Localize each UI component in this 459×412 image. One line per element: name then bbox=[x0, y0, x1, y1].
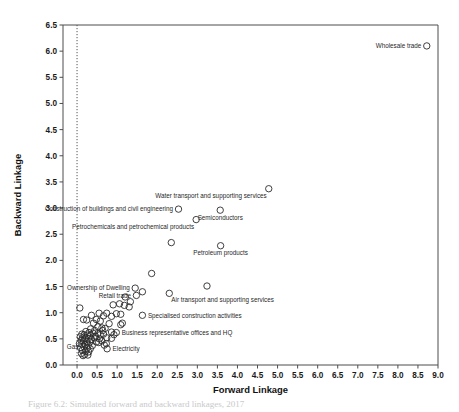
x-tick-label: 4.0 bbox=[232, 371, 244, 380]
data-point bbox=[118, 322, 124, 328]
point-labels-layer: Wholesale tradeWater transport and suppo… bbox=[45, 42, 422, 353]
point-label: Air transport and supporting services bbox=[171, 296, 274, 304]
data-point bbox=[217, 243, 223, 249]
point-label: Water transport and supporting services bbox=[155, 192, 266, 200]
point-label: Petroleum products bbox=[193, 249, 248, 257]
y-tick-label: 5.5 bbox=[46, 73, 58, 82]
data-point bbox=[108, 313, 114, 319]
data-point bbox=[119, 320, 125, 326]
y-tick-label: 2.5 bbox=[46, 230, 58, 239]
y-tick-label: 6.0 bbox=[46, 47, 58, 56]
point-label: Retail trade bbox=[99, 292, 132, 299]
x-tick-label: 7.0 bbox=[352, 371, 364, 380]
data-point bbox=[77, 305, 83, 311]
data-point bbox=[139, 312, 145, 318]
point-label: Semiconductors bbox=[198, 214, 243, 221]
scatter-plot: 0.00.51.01.52.02.53.03.54.04.55.05.56.06… bbox=[0, 0, 459, 412]
x-tick-label: 5.5 bbox=[292, 371, 304, 380]
data-point bbox=[424, 43, 430, 49]
y-tick-label: 5.0 bbox=[46, 99, 58, 108]
x-tick-label: 3.0 bbox=[192, 371, 204, 380]
data-point bbox=[266, 186, 272, 192]
y-tick-label: 6.5 bbox=[46, 21, 58, 30]
point-label: Construction of buildings and civil engi… bbox=[45, 205, 174, 213]
point-label: Business representative offices and HQ bbox=[122, 329, 233, 337]
x-tick-label: 6.0 bbox=[312, 371, 324, 380]
y-tick-label: 1.0 bbox=[46, 309, 58, 318]
x-tick-label: 3.5 bbox=[212, 371, 224, 380]
x-tick-label: 1.0 bbox=[111, 371, 123, 380]
y-tick-label: 1.5 bbox=[46, 283, 58, 292]
point-label: Electricity bbox=[113, 345, 141, 353]
y-tick-label: 4.0 bbox=[46, 152, 58, 161]
data-point bbox=[217, 207, 223, 213]
y-tick-label: 2.0 bbox=[46, 256, 58, 265]
x-tick-label: 4.5 bbox=[252, 371, 264, 380]
x-tick-label: 1.5 bbox=[132, 371, 144, 380]
y-tick-label: 4.5 bbox=[46, 126, 58, 135]
x-tick-label: 6.5 bbox=[332, 371, 344, 380]
data-point bbox=[168, 239, 174, 245]
data-point bbox=[118, 311, 124, 317]
axes-layer: 0.00.51.01.52.02.53.03.54.04.55.05.56.06… bbox=[46, 21, 445, 380]
data-point bbox=[97, 318, 103, 324]
data-points-layer bbox=[76, 43, 430, 359]
x-tick-label: 5.0 bbox=[272, 371, 284, 380]
data-point bbox=[175, 206, 181, 212]
x-tick-label: 0.5 bbox=[91, 371, 103, 380]
x-tick-label: 2.5 bbox=[172, 371, 184, 380]
x-tick-label: 8.0 bbox=[392, 371, 404, 380]
y-tick-label: 0.5 bbox=[46, 335, 58, 344]
x-tick-label: 8.5 bbox=[412, 371, 424, 380]
axis-titles-layer: Forward LinkageBackward Linkage bbox=[12, 154, 288, 395]
figure-caption: Figure 6.2: Simulated forward and backwa… bbox=[28, 399, 448, 409]
x-tick-label: 0.0 bbox=[71, 371, 83, 380]
x-tick-label: 7.5 bbox=[372, 371, 384, 380]
figure-container: 0.00.51.01.52.02.53.03.54.04.55.05.56.06… bbox=[0, 0, 459, 412]
y-tick-label: 3.5 bbox=[46, 178, 58, 187]
x-axis-title: Forward Linkage bbox=[213, 384, 288, 395]
x-tick-label: 2.0 bbox=[152, 371, 164, 380]
y-axis-title: Backward Linkage bbox=[12, 154, 23, 236]
y-tick-label: 0.0 bbox=[46, 361, 58, 370]
point-label: Petrochemicals and petrochemical product… bbox=[72, 223, 194, 231]
data-point bbox=[133, 292, 139, 298]
data-point bbox=[110, 302, 116, 308]
point-label: Wholesale trade bbox=[376, 42, 422, 49]
point-label: Gas bbox=[67, 343, 79, 350]
point-label: Specialised construction activities bbox=[148, 312, 242, 320]
data-point bbox=[204, 283, 210, 289]
x-tick-label: 9.0 bbox=[432, 371, 444, 380]
data-point bbox=[132, 285, 138, 291]
data-point bbox=[148, 270, 154, 276]
data-point bbox=[139, 289, 145, 295]
data-point bbox=[88, 312, 94, 318]
